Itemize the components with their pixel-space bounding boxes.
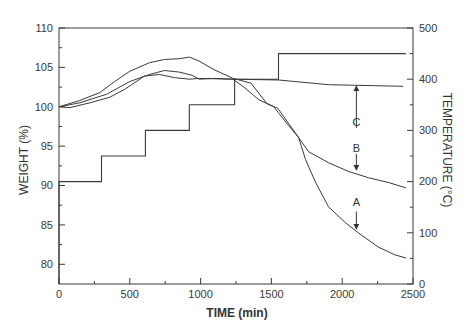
tick-labels: 0500100015002000250080859095100105110010… [35, 22, 438, 300]
weight-curve-a [59, 57, 406, 258]
y2-tick-label: 100 [419, 227, 437, 239]
x-tick-label: 2000 [330, 288, 354, 300]
y-tick-label: 105 [35, 61, 53, 73]
x-tick-label: 0 [56, 288, 62, 300]
curve-label-b: B [353, 142, 360, 154]
weight-curve-c [59, 75, 403, 108]
y-tick-label: 110 [35, 22, 53, 34]
y2-tick-label: 200 [419, 175, 437, 187]
y2-tick-label: 0 [419, 278, 425, 290]
weight-curve-b [59, 71, 406, 188]
y-axis-title-weight: WEIGHT (%) [17, 125, 31, 195]
y-tick-label: 95 [41, 140, 53, 152]
x-axis-title-time: TIME (min) [206, 306, 267, 320]
y-tick-label: 90 [41, 179, 53, 191]
temperature-step-line [59, 54, 406, 284]
tga-chart: 0500100015002000250080859095100105110010… [0, 0, 471, 329]
x-tick-label: 1000 [188, 288, 212, 300]
y2-tick-label: 300 [419, 124, 437, 136]
y2-tick-label: 400 [419, 73, 437, 85]
y2-tick-label: 500 [419, 22, 437, 34]
y-tick-label: 100 [35, 101, 53, 113]
x-tick-label: 1500 [259, 288, 283, 300]
curve-annotations: CBA [352, 86, 360, 229]
curve-label-a: A [353, 196, 361, 208]
x-tick-label: 500 [121, 288, 139, 300]
data-series [59, 54, 406, 284]
y2-axis-title-temperature: TEMPERATURE (°C) [440, 93, 454, 208]
y-tick-label: 85 [41, 219, 53, 231]
y-tick-label: 80 [41, 258, 53, 270]
